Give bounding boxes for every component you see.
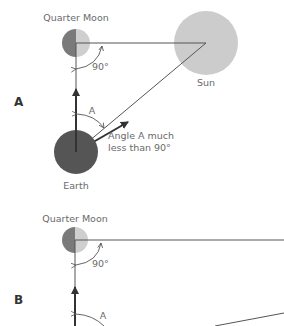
right-angle-label-a: 90° (92, 61, 109, 72)
angle-a-label-b: A (100, 310, 107, 321)
earth-label: Earth (63, 180, 88, 191)
earth-sun-line-b (215, 313, 284, 326)
right-angle-label-b: 90° (92, 258, 109, 269)
angle-a-arc (77, 114, 104, 128)
sun-label: Sun (197, 77, 215, 88)
note-line-2: less than 90° (108, 142, 171, 153)
panel-b: Quarter Moon 90° A B (14, 213, 284, 326)
panel-a: Quarter Moon Sun 90° A Earth Angle A muc… (14, 11, 238, 191)
quarter-moon-label-a: Quarter Moon (43, 12, 109, 23)
quarter-moon-label-b: Quarter Moon (42, 213, 108, 224)
moon-sun-earth-diagram: Quarter Moon Sun 90° A Earth Angle A muc… (0, 0, 284, 326)
angle-a-label: A (89, 105, 96, 116)
panel-a-label: A (14, 95, 24, 109)
panel-b-label: B (14, 293, 23, 307)
note-line-1: Angle A much (108, 130, 174, 141)
